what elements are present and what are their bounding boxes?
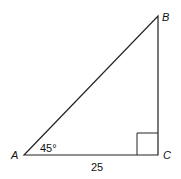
right-angle-marker [137, 133, 158, 155]
side-ac-label: 25 [91, 161, 103, 173]
vertex-label-c: C [163, 149, 171, 161]
triangle-diagram: A B C 45° 25 [0, 0, 181, 179]
triangle-abc [24, 16, 158, 155]
angle-a-label: 45° [40, 142, 57, 154]
vertex-label-b: B [162, 11, 169, 23]
vertex-label-a: A [10, 149, 18, 161]
